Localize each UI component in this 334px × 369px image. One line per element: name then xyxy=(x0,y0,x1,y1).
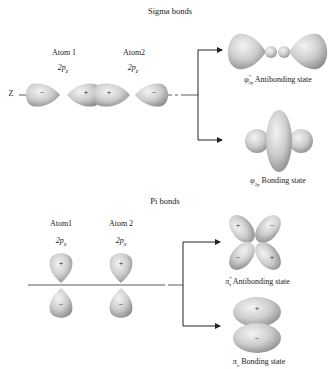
sigma-atom2-label: Atom2 xyxy=(114,48,154,57)
pi-sign-atom2-bottom: − xyxy=(116,300,126,309)
orbital-text: 2p xyxy=(58,63,66,72)
sigma-atom1-label: Atom 1 xyxy=(44,48,84,57)
orbital-text: 2p xyxy=(56,236,64,245)
pi-ab-sign-bl: − xyxy=(233,253,243,262)
sigma-antibonding-sphere-right xyxy=(278,46,290,58)
orbital-sub: z xyxy=(66,68,68,74)
sigma-bonding-sphere-right xyxy=(289,129,313,153)
pi-antibonding-label: π*x Antibonding state xyxy=(210,276,305,287)
sigma-antibonding-label: φ*2p Antibonding state xyxy=(228,74,328,85)
pi-b-sign-bottom: − xyxy=(252,334,262,343)
pi-ab-sign-tl: + xyxy=(233,221,243,230)
pi-sign-atom1-top: + xyxy=(56,259,66,268)
label-sub: 2p xyxy=(248,80,253,85)
sigma-sign-4: − xyxy=(149,88,159,97)
orbital-text: 2p xyxy=(116,236,124,245)
orbital-sub: x xyxy=(124,241,127,247)
pi-atom1-orbital: 2px xyxy=(46,236,76,247)
pi-ab-sign-br: + xyxy=(267,253,277,262)
pi-lobe-atom2-top xyxy=(110,253,133,283)
pi-atom2-label: Atom 2 xyxy=(101,219,141,228)
orbital-sub: x xyxy=(64,241,67,247)
sigma-antibonding-lobe-left xyxy=(228,34,266,70)
orbital-sub: z xyxy=(136,68,138,74)
orbital-text: 2p xyxy=(128,63,136,72)
sigma-atom2-orbital: 2pz xyxy=(118,63,148,74)
sigma-antibonding-sphere-left xyxy=(265,46,277,58)
sigma-sign-2: + xyxy=(81,88,91,97)
label-text: Bonding state xyxy=(262,176,306,185)
label-sub: x xyxy=(229,282,232,287)
sigma-sign-1: − xyxy=(37,88,47,97)
cropped-caption xyxy=(60,0,62,3)
pi-bonding-label: πx Bonding state xyxy=(214,357,304,368)
sigma-bonding-sphere-left xyxy=(245,129,269,153)
z-axis-label: Z xyxy=(5,89,17,98)
sigma-atom1-orbital: 2pz xyxy=(48,63,78,74)
sigma-bonding-label: φ2p Bonding state xyxy=(228,176,328,187)
pi-atom2-orbital: 2px xyxy=(106,236,136,247)
label-text: Antibonding state xyxy=(255,75,312,84)
pi-sign-atom2-top: + xyxy=(116,259,126,268)
label-sub: x xyxy=(237,363,240,368)
sigma-bonding-central-lobe xyxy=(266,110,292,172)
pi-b-sign-top: + xyxy=(252,304,262,313)
pi-atom1-label: Atom1 xyxy=(41,219,81,228)
label-sub: 2p xyxy=(255,182,260,187)
label-sup: * xyxy=(249,74,252,79)
label-text: Antibonding state xyxy=(233,277,290,286)
pi-title: Pi bonds xyxy=(140,196,190,206)
sigma-sign-3: + xyxy=(104,88,114,97)
label-sup: * xyxy=(229,276,232,281)
sigma-antibonding-lobe-right xyxy=(289,34,327,70)
pi-sign-atom1-bottom: − xyxy=(56,300,66,309)
pi-lobe-atom1-top xyxy=(50,253,73,283)
sigma-title: Sigma bonds xyxy=(135,6,205,16)
label-text: Bonding state xyxy=(241,357,285,366)
pi-ab-sign-tr: − xyxy=(267,221,277,230)
